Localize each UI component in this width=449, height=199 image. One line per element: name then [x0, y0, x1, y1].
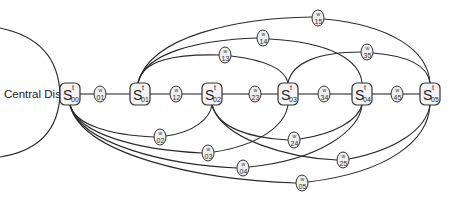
w-node-05-top: w: [301, 176, 305, 182]
edge-s00-w05: [70, 105, 296, 183]
w-node-02-top: w: [159, 130, 163, 136]
edge-w24-s04: [300, 105, 362, 139]
edge-s00-w02: [70, 105, 154, 137]
edge-w35-s05: [373, 53, 430, 83]
s-node-00: S t 00: [60, 83, 80, 105]
s-node-04-sup: t: [364, 84, 366, 91]
central-disc-label: Central Disc: [4, 88, 67, 100]
edge-w15-s05: [324, 19, 430, 83]
w-node-25: w 25: [337, 152, 349, 168]
s-node-01: S t 01: [130, 83, 150, 105]
w-node-25-top: w: [342, 153, 346, 159]
w-node-12: w 12: [170, 86, 182, 102]
w-node-35: w 35: [361, 44, 373, 60]
w-node-12-top: w: [175, 87, 179, 93]
edge-w03-s03: [214, 105, 288, 152]
w-node-34-bot: 34: [321, 94, 329, 101]
w-node-23: w 23: [249, 86, 261, 102]
s-node-04-sub: 04: [363, 96, 371, 103]
w-node-34-top: w: [323, 87, 327, 93]
s-node-01-sup: t: [142, 84, 144, 91]
w-node-24: w 24: [288, 132, 300, 148]
s-node-03: S t 03: [278, 83, 298, 105]
w-node-13: w 13: [219, 47, 231, 63]
w-node-14: w 14: [257, 30, 269, 46]
s-node-04: S t 04: [352, 83, 372, 105]
w-node-15-top: w: [317, 11, 321, 17]
w-node-25-bot: 25: [340, 160, 348, 167]
edge-s00-w03: [70, 105, 202, 153]
s-node-03-sub: 03: [289, 96, 297, 103]
s-node-00-sup: t: [72, 84, 74, 91]
w-node-24-top: w: [293, 133, 297, 139]
edge-s01-w14: [138, 38, 257, 83]
s-node-02-sub: 02: [213, 96, 221, 103]
w-node-01-top: w: [99, 87, 103, 93]
w-node-24-bot: 24: [291, 140, 299, 147]
w-node-14-bot: 14: [260, 38, 268, 45]
w-node-12-bot: 12: [173, 94, 181, 101]
edge-w14-s04: [269, 39, 362, 83]
s-node-05: S t 05: [420, 83, 440, 105]
w-node-03: w 03: [202, 145, 214, 161]
w-node-45-bot: 45: [394, 94, 402, 101]
edge-w25-s05: [349, 105, 430, 159]
w-node-01-bot: 01: [97, 94, 105, 101]
w-node-35-bot: 35: [364, 52, 372, 59]
w-node-45: w 45: [391, 86, 403, 102]
w-node-13-top: w: [224, 48, 228, 54]
s-node-00-sub: 00: [71, 96, 79, 103]
w-node-13-bot: 13: [222, 55, 230, 62]
s-node-05-sup: t: [432, 84, 434, 91]
w-node-04: w 04: [237, 160, 249, 176]
w-node-03-bot: 03: [205, 153, 213, 160]
s-node-02-sup: t: [214, 84, 216, 91]
w-node-15-bot: 15: [315, 18, 323, 25]
w-node-34: w 34: [318, 86, 330, 102]
w-node-02-bot: 02: [157, 137, 165, 144]
w-node-45-top: w: [396, 87, 400, 93]
edge-w13-s03: [231, 56, 288, 83]
edge-w05-s05: [308, 105, 430, 182]
edge-s02-w25: [212, 105, 337, 160]
w-node-35-top: w: [366, 45, 370, 51]
s-node-03-sup: t: [290, 84, 292, 91]
w-node-04-top: w: [242, 161, 246, 167]
edge-w02-s02: [166, 105, 212, 136]
w-node-15: w 15: [312, 10, 324, 26]
w-node-05-bot: 05: [299, 183, 307, 190]
w-node-03-top: w: [207, 146, 211, 152]
s-node-05-sub: 05: [431, 96, 439, 103]
w-node-05: w 05: [296, 175, 308, 191]
network-diagram: Central Disc S t 00 S t 01 S: [0, 0, 449, 199]
w-node-02: w 02: [154, 129, 166, 145]
w-node-23-bot: 23: [252, 94, 260, 101]
edge-s03-w35: [288, 52, 361, 83]
w-node-01: w 01: [94, 86, 106, 102]
edge-s01-w13: [138, 55, 219, 83]
w-node-23-top: w: [254, 87, 258, 93]
w-node-14-top: w: [262, 31, 266, 37]
w-node-04-bot: 04: [240, 168, 248, 175]
s-node-02: S t 02: [202, 83, 222, 105]
s-node-01-sub: 01: [141, 96, 149, 103]
